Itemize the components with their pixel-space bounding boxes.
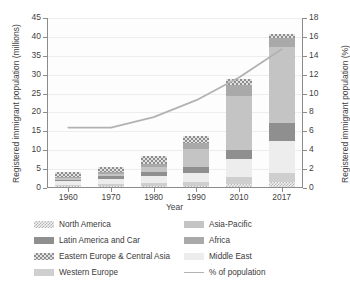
legend-color-swatch <box>34 269 54 276</box>
legend-item-label: % of population <box>209 268 265 277</box>
y-tick-right <box>303 112 307 113</box>
legend-item-label: Asia-Pacific <box>209 220 252 229</box>
legend-item[interactable]: Latin America and Car <box>34 236 184 245</box>
legend-color-swatch <box>184 253 204 260</box>
y-axis-title-left: Registered immigrant population (million… <box>11 24 21 183</box>
legend-color-swatch <box>184 237 204 244</box>
x-tick-label: 2010 <box>219 192 259 202</box>
x-tick-label: 1960 <box>48 192 88 202</box>
legend-item-label: Western Europe <box>59 268 118 277</box>
y-tick-label-left: 30 <box>21 70 41 79</box>
legend-item[interactable]: North America <box>34 220 184 229</box>
legend-item-label: Africa <box>209 236 230 245</box>
x-tick-label: 2017 <box>262 192 302 202</box>
x-axis-title: Year <box>0 202 349 212</box>
legend-item-label: Latin America and Car <box>59 236 140 245</box>
y-tick-label-right: 0 <box>309 183 329 192</box>
y-tick-label-left: 5 <box>21 164 41 173</box>
legend-item[interactable]: Asia-Pacific <box>184 220 334 229</box>
y-tick-label-right: 18 <box>309 13 329 22</box>
legend-color-swatch <box>184 221 204 228</box>
y-tick-label-left: 10 <box>21 145 41 154</box>
y-tick-label-left: 25 <box>21 89 41 98</box>
y-tick-label-left: 15 <box>21 126 41 135</box>
legend-item[interactable]: Africa <box>184 236 334 245</box>
y-tick-label-right: 8 <box>309 107 329 116</box>
y-axis-title-right: Registered immigrant population (%) <box>340 45 350 183</box>
y-tick-right <box>303 150 307 151</box>
chart-legend: North AmericaAsia-PacificLatin America a… <box>34 216 334 280</box>
y-tick-label-right: 2 <box>309 164 329 173</box>
y-tick-right <box>303 94 307 95</box>
y-tick-label-left: 40 <box>21 32 41 41</box>
legend-item[interactable]: % of population <box>184 268 334 277</box>
y-tick-label-left: 0 <box>21 183 41 192</box>
y-tick-right <box>303 169 307 170</box>
percent-line-series <box>47 18 303 188</box>
y-tick-right <box>303 37 307 38</box>
legend-color-swatch <box>34 221 54 228</box>
legend-line-swatch <box>184 272 204 273</box>
y-tick-label-right: 14 <box>309 51 329 60</box>
legend-item-label: Middle East <box>209 252 252 261</box>
y-tick-right <box>303 131 307 132</box>
y-tick-right <box>303 75 307 76</box>
y-tick-label-left: 45 <box>21 13 41 22</box>
y-tick-label-right: 4 <box>309 145 329 154</box>
y-tick-label-right: 10 <box>309 89 329 98</box>
legend-item[interactable]: Eastern Europe & Central Asia <box>34 252 184 261</box>
x-tick-label: 1970 <box>91 192 131 202</box>
y-tick-label-right: 6 <box>309 126 329 135</box>
y-tick-label-right: 16 <box>309 32 329 41</box>
legend-item-label: North America <box>59 220 111 229</box>
legend-item[interactable]: Western Europe <box>34 268 184 277</box>
y-tick-label-left: 35 <box>21 51 41 60</box>
y-tick-right <box>303 56 307 57</box>
legend-item[interactable]: Middle East <box>184 252 334 261</box>
y-tick-label-right: 12 <box>309 70 329 79</box>
y-tick-left <box>43 188 47 189</box>
y-tick-label-left: 20 <box>21 107 41 116</box>
legend-color-swatch <box>34 237 54 244</box>
x-tick-label: 1980 <box>134 192 174 202</box>
legend-item-label: Eastern Europe & Central Asia <box>59 252 170 261</box>
legend-color-swatch <box>34 253 54 260</box>
y-tick-right <box>303 18 307 19</box>
y-tick-right <box>303 188 307 189</box>
plot-area: 051015202530354045 024681012141618 19601… <box>47 18 303 188</box>
x-tick-label: 1990 <box>176 192 216 202</box>
